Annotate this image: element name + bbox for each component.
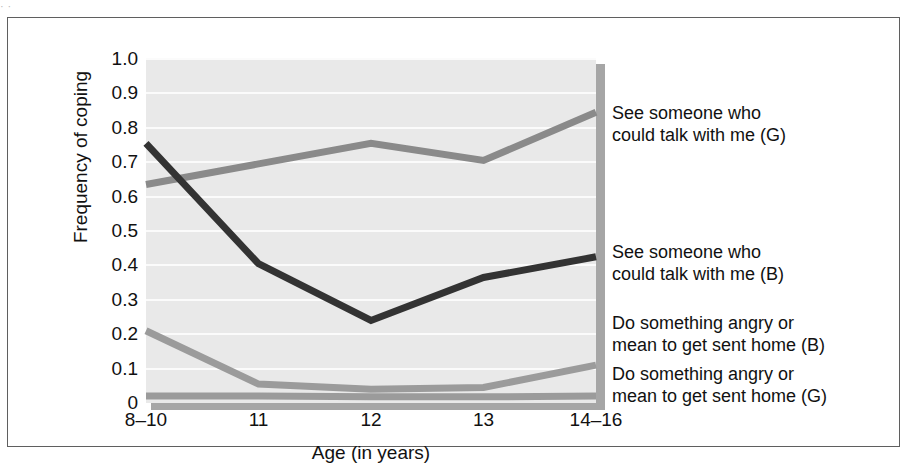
legend-item-label-line1: See someone who [612,102,786,124]
plot-right-shadow [596,64,605,408]
figure-frame: 1.00.90.80.70.60.50.40.30.20.10 Frequenc… [7,17,900,447]
legend-item: See someone whocould talk with me (B) [612,241,784,285]
plot-area [146,59,596,403]
y-axis-title: Frequency of coping [70,42,92,272]
x-tick-label: 13 [473,410,494,430]
x-tick-label: 11 [249,410,269,430]
x-tick-label: 14–16 [570,410,623,430]
series-line [146,396,596,397]
legend-item-label-line2: could talk with me (B) [612,263,784,285]
legend-item-label-line2: mean to get sent home (G) [612,385,827,407]
legend-item: Do something angry ormean to get sent ho… [612,363,827,407]
legend-item: Do something angry ormean to get sent ho… [612,312,825,356]
y-tick-label: 0.3 [82,290,138,309]
series-lines [146,59,596,403]
legend-item-label-line2: mean to get sent home (B) [612,334,825,356]
legend-item-label-line2: could talk with me (G) [612,124,786,146]
legend-item-label-line1: Do something angry or [612,363,827,385]
x-tick-label: 8–10 [125,410,167,430]
x-tick-label: 12 [360,410,381,430]
legend-item-label-line1: Do something angry or [612,312,825,334]
legend-item: See someone whocould talk with me (G) [612,102,786,146]
page-top-text-fragment: · · [0,0,908,12]
y-tick-label: 0.1 [82,359,138,378]
x-axis-title: Age (in years) [312,442,430,464]
series-line [146,331,596,389]
y-tick-label: 0.2 [82,324,138,343]
series-line [146,112,596,184]
legend-item-label-line1: See someone who [612,241,784,263]
